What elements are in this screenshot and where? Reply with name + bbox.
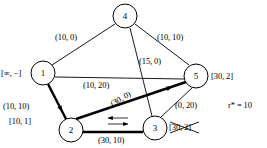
node-2-state-label: [10, 1] (9, 117, 31, 126)
edge-2-3-label: (30, 10) (98, 136, 124, 145)
edge-2-3-line (83, 118, 143, 132)
node-label-4: 4 (118, 12, 132, 21)
node-5-state-label: [30, 2] (211, 72, 233, 81)
edge-1-4-label: (10, 0) (55, 33, 77, 42)
node-label-5: 5 (189, 72, 203, 81)
node-label-1: 1 (36, 69, 50, 78)
edge-1-2-line (48, 84, 66, 119)
edge-1-4-line (52, 24, 115, 65)
edge-1-5-label: (10, 20) (83, 81, 109, 90)
edge-4-3-line (130, 28, 152, 116)
residual-capacity-annotation: r* = 10 (228, 101, 252, 110)
node-1-state-label: [∞, −] (1, 69, 21, 78)
node-label-3: 3 (148, 124, 162, 133)
node-label-2: 2 (64, 126, 78, 135)
network-flow-diagram: 4 1 5 2 3 [∞, −] [30, 2] [10, 1] [30, 2]… (0, 0, 267, 148)
edge-3-5-label: (0, 20) (175, 101, 197, 110)
edge-1-2-label: (10, 10) (3, 102, 29, 111)
edge-4-5-label: (10, 10) (157, 33, 183, 42)
edge-4-3-label: (15, 0) (139, 57, 161, 66)
edge-1-5-line (55, 77, 184, 79)
node-3-state-label-struck: [30, 2] (169, 123, 191, 132)
